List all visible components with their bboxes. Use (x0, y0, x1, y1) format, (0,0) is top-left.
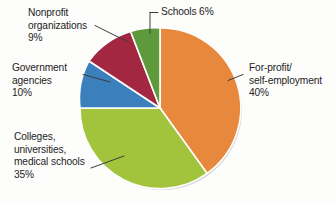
slice-label-nonprofit-organizations: Nonprofit organizations 9% (28, 7, 87, 45)
pie-chart-figure: Schools 6% Nonprofit organizations 9% Go… (0, 0, 335, 202)
slice-label-government-agencies: Government agencies 10% (12, 62, 67, 100)
slice-label-colleges-universities-medical-schools: Colleges, universities, medical schools … (14, 131, 85, 181)
slice-label-schools: Schools 6% (161, 6, 214, 19)
slice-label-for-profit-self-employment: For-profit/ self-employment 40% (249, 62, 322, 100)
